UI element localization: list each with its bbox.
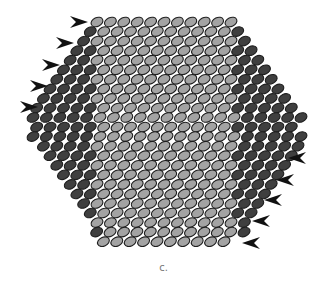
arrow-left-icon	[242, 237, 260, 249]
dark-particle	[36, 140, 51, 153]
dark-particle	[237, 225, 252, 238]
arrow-left-icon	[252, 215, 270, 227]
arrow-right-icon	[42, 59, 60, 71]
dark-particle	[89, 225, 104, 238]
particle-lattice	[26, 15, 309, 248]
particle-lattice-diagram	[0, 0, 327, 285]
dark-particle	[26, 130, 41, 143]
arrow-right-icon	[70, 16, 88, 28]
arrow-right-icon	[56, 37, 74, 49]
figure-caption: c.	[0, 262, 327, 273]
dark-particle	[294, 111, 309, 124]
